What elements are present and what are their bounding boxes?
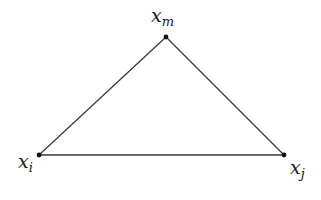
vertex-label-j: xj [290, 158, 305, 180]
edge-j-m [166, 37, 284, 155]
vertex-m-dot [164, 35, 169, 40]
vertex-label-i-base: x [18, 150, 29, 172]
edge-m-i [39, 37, 166, 155]
vertex-label-m-base: x [151, 4, 162, 26]
vertex-label-m-sub: m [162, 14, 174, 29]
vertex-label-j-base: x [290, 156, 301, 178]
vertex-label-m: xm [151, 6, 174, 28]
vertex-label-i-sub: i [29, 160, 33, 175]
vertex-label-j-sub: j [301, 166, 305, 181]
vertex-j-dot [282, 153, 287, 158]
vertex-i-dot [37, 153, 42, 158]
triangle-diagram [0, 0, 321, 200]
vertex-label-i: xi [18, 152, 33, 174]
